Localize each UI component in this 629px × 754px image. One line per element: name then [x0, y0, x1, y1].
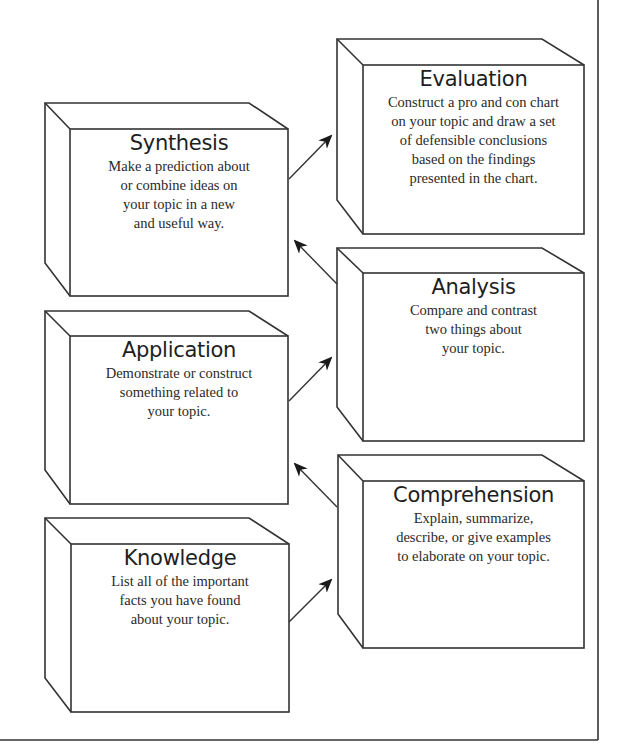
- box-synthesis: Synthesis Make a prediction about or com…: [70, 129, 288, 233]
- arrow-comprehension-to-application: [295, 464, 337, 507]
- box-description: List all of the important facts you have…: [71, 572, 289, 629]
- arrow-application-to-analysis: [289, 358, 331, 401]
- box-description: Explain, summarize, describe, or give ex…: [363, 509, 584, 566]
- blooms-taxonomy-diagram: Evaluation Construct a pro and con chart…: [0, 0, 629, 754]
- box-analysis: Analysis Compare and contrast two things…: [363, 273, 584, 358]
- box-description: Demonstrate or construct something relat…: [70, 364, 288, 421]
- arrow-knowledge-to-comprehension: [289, 580, 331, 622]
- box-description: Compare and contrast two things about yo…: [363, 301, 584, 358]
- box-title: Evaluation: [363, 67, 584, 91]
- box-title: Comprehension: [363, 483, 584, 507]
- box-evaluation: Evaluation Construct a pro and con chart…: [363, 65, 584, 188]
- box-title: Analysis: [363, 275, 584, 299]
- box-description: Make a prediction about or combine ideas…: [70, 157, 288, 233]
- box-knowledge: Knowledge List all of the important fact…: [71, 544, 289, 629]
- box-title: Application: [70, 338, 288, 362]
- box-title: Synthesis: [70, 131, 288, 155]
- box-comprehension: Comprehension Explain, summarize, descri…: [363, 481, 584, 566]
- box-application: Application Demonstrate or construct som…: [70, 336, 288, 421]
- arrow-synthesis-to-evaluation: [289, 136, 331, 179]
- box-description: Construct a pro and con chart on your to…: [363, 93, 584, 188]
- arrow-analysis-to-synthesis: [295, 241, 337, 284]
- box-title: Knowledge: [71, 546, 289, 570]
